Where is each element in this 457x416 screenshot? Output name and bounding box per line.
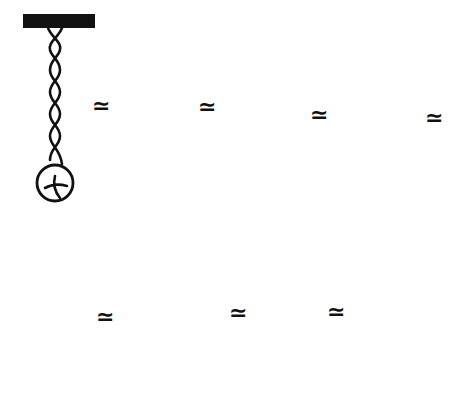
bar bbox=[23, 14, 95, 28]
diagram-svg bbox=[0, 0, 457, 416]
ribbon-isotopy-diagram: ≃ ≃ ≃ ≃ ≃ ≃ ≃ bbox=[0, 0, 457, 416]
relation-symbol-3: ≃ bbox=[310, 104, 328, 126]
relation-symbol-2: ≃ bbox=[198, 96, 216, 118]
relation-symbol-7: ≃ bbox=[327, 301, 345, 323]
relation-symbol-4: ≃ bbox=[425, 107, 443, 129]
relation-symbol-5: ≃ bbox=[96, 306, 114, 328]
relation-symbol-6: ≃ bbox=[229, 302, 247, 324]
relation-symbol-1: ≃ bbox=[92, 95, 110, 117]
panel-1-twisted-ribbon bbox=[23, 14, 95, 201]
